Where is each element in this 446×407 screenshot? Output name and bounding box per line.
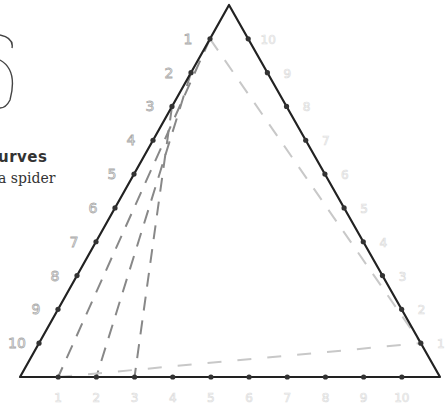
bottom-dot (94, 374, 99, 379)
right-label: 5 (360, 202, 368, 216)
bottom-label: 1 (54, 391, 62, 405)
right-dot (303, 138, 308, 143)
decorative-outline-fragment (0, 35, 12, 108)
left-dot (93, 239, 98, 244)
left-dot (207, 36, 212, 41)
bottom-dot (132, 374, 137, 379)
right-dot (284, 104, 289, 109)
left-label: 7 (70, 234, 79, 250)
right-label: 2 (418, 303, 426, 317)
right-dot (322, 171, 327, 176)
bottom-dot (208, 374, 213, 379)
right-dot (341, 205, 346, 210)
right-label: 6 (341, 168, 349, 182)
left-dot (169, 104, 174, 109)
bottom-dot (285, 374, 290, 379)
right-dot (361, 239, 366, 244)
right-label: 7 (322, 134, 330, 148)
right-dot (265, 70, 270, 75)
stitch-line (96, 73, 191, 377)
right-label: 1 (437, 337, 445, 351)
bottom-dot (246, 374, 251, 379)
bottom-label: 10 (394, 391, 409, 405)
left-dot (131, 171, 136, 176)
left-dot (188, 70, 193, 75)
stitch-line-light (58, 343, 421, 377)
right-label: 4 (379, 236, 387, 250)
stitch-line (135, 106, 172, 377)
bottom-label: 6 (245, 391, 253, 405)
right-dot (246, 36, 251, 41)
left-label: 10 (8, 335, 26, 351)
left-label: 9 (32, 301, 41, 317)
bottom-label: 9 (360, 391, 368, 405)
left-label: 1 (184, 31, 193, 47)
bottom-dot (170, 374, 175, 379)
bottom-label: 5 (207, 391, 215, 405)
curve-stitching-triangle: 111222333444555666777888999101010 (0, 0, 446, 407)
left-dot (36, 341, 41, 346)
right-label: 3 (399, 270, 407, 284)
right-dot (380, 273, 385, 278)
left-label: 2 (165, 65, 174, 81)
bottom-label: 4 (169, 391, 177, 405)
bottom-label: 8 (322, 391, 330, 405)
right-dot (418, 341, 423, 346)
bottom-dot (323, 374, 328, 379)
left-label: 8 (51, 268, 60, 284)
bottom-dot (399, 374, 404, 379)
bottom-label: 2 (93, 391, 101, 405)
left-label: 6 (89, 200, 98, 216)
right-label: 9 (284, 67, 292, 81)
bottom-label: 7 (283, 391, 291, 405)
left-dot (55, 307, 60, 312)
bottom-dot (361, 374, 366, 379)
bottom-label: 3 (131, 391, 139, 405)
left-dot (74, 273, 79, 278)
left-label: 3 (146, 98, 155, 114)
left-dot (150, 138, 155, 143)
stitch-line-light (210, 39, 421, 343)
right-label: 10 (261, 33, 276, 47)
right-label: 8 (303, 100, 311, 114)
left-label: 4 (127, 132, 136, 148)
triangle-outline (20, 5, 440, 377)
left-dot (112, 205, 117, 210)
bottom-dot (56, 374, 61, 379)
left-label: 5 (108, 166, 117, 182)
right-dot (399, 307, 404, 312)
stitch-line (58, 39, 210, 377)
